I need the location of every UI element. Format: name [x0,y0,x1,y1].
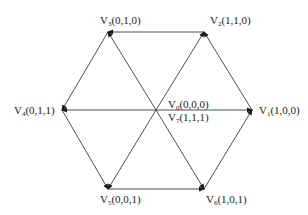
switching-state: (1,0,1) [217,193,246,205]
label-v2: V2(1,1,0) [210,14,251,30]
vector-name: V [168,98,176,110]
spoke-V3 [108,32,156,110]
vector-spokes [62,32,252,189]
switching-state: (1,1,1) [179,111,208,123]
switching-state: (0,1,0) [111,14,140,26]
switching-state: (1,0,0) [270,104,299,116]
vector-name: V [168,111,176,123]
label-v5: V5(0,0,1) [100,193,141,209]
label-v3: V3(0,1,0) [100,14,141,30]
label-v6: V6(1,0,1) [206,193,247,209]
vector-name: V [100,193,108,205]
spoke-V5 [108,110,156,189]
label-v4: V4(0,1,1) [14,104,55,120]
vector-name: V [14,104,22,116]
switching-state: (0,0,0) [179,98,208,110]
vector-name: V [259,104,267,116]
switching-state: (0,0,1) [111,193,140,205]
switching-state: (1,1,0) [221,14,250,26]
label-v1: V1(1,0,0) [259,104,300,120]
vector-name: V [210,14,218,26]
switching-state: (0,1,1) [25,104,54,116]
edge-V4-V5 [62,110,108,189]
vector-name: V [100,14,108,26]
edge-V3-V4 [62,32,108,110]
edge-V6-V1 [204,110,252,189]
edge-V1-V2 [204,32,252,110]
hexagon-edges [62,32,252,189]
vector-name: V [206,193,214,205]
label-v7: V7(1,1,1) [168,111,209,127]
